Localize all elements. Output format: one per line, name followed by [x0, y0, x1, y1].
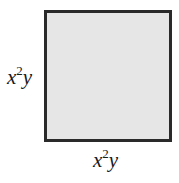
label-tail: y: [109, 148, 118, 172]
label-base: x: [93, 148, 102, 172]
label-exponent: 2: [102, 146, 109, 161]
side-label-bottom: x2y: [93, 150, 118, 171]
label-exponent: 2: [16, 63, 23, 78]
label-tail: y: [23, 65, 32, 89]
label-base: x: [7, 65, 16, 89]
square-shape: [44, 10, 172, 142]
side-label-left: x2y: [7, 67, 32, 88]
